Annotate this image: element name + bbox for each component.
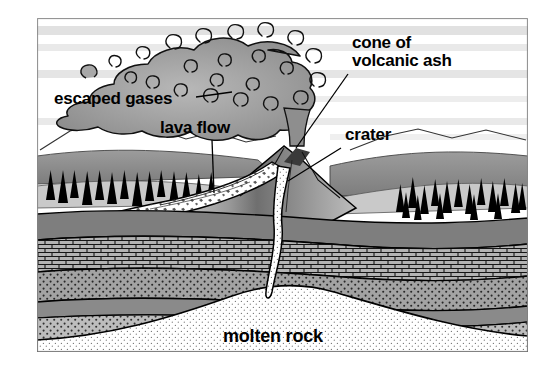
diagram-artwork — [0, 0, 552, 371]
label-cone-of-volcanic-ash-line1: cone of — [352, 34, 452, 52]
volcano-diagram: cone of volcanic ash escaped gases lava … — [0, 0, 552, 371]
label-escaped-gases: escaped gases — [54, 90, 172, 108]
label-molten-rock: molten rock — [223, 327, 323, 346]
label-cone-of-volcanic-ash: cone of volcanic ash — [352, 34, 452, 70]
label-crater: crater — [345, 126, 391, 144]
label-lava-flow: lava flow — [160, 119, 230, 137]
scene — [37, 18, 528, 352]
label-cone-of-volcanic-ash-line2: volcanic ash — [352, 52, 452, 70]
